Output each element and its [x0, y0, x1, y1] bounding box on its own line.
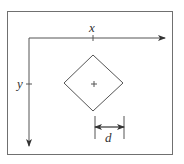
x-axis [29, 35, 165, 41]
dimension-label: d [105, 131, 112, 144]
center-cross-icon [91, 81, 97, 87]
x-axis-label: x [89, 21, 95, 34]
y-axis [26, 38, 32, 146]
y-axis-label: y [17, 77, 23, 90]
